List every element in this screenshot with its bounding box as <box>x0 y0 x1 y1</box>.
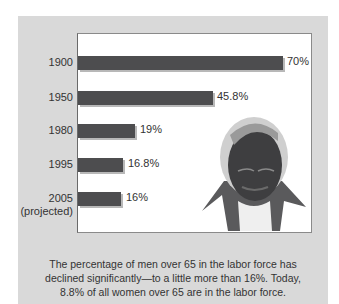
bar-1980 <box>78 124 135 138</box>
y-label-projected: (projected) <box>20 205 73 218</box>
caption-line-1: The percentage of men over 65 in the lab… <box>28 257 318 271</box>
value-label-1900: 70% <box>287 55 309 67</box>
value-label-1980: 19% <box>140 123 162 135</box>
bar-1950 <box>78 91 213 105</box>
y-label-1995: 1995 <box>49 158 73 171</box>
y-label-1950: 1950 <box>49 91 73 104</box>
value-label-1995: 16.8% <box>128 157 159 169</box>
y-label-1980: 1980 <box>49 124 73 137</box>
value-label-1950: 45.8% <box>217 90 248 102</box>
bar-2005 <box>78 192 121 206</box>
chart-caption: The percentage of men over 65 in the lab… <box>28 257 318 299</box>
value-label-2005: 16% <box>126 191 148 203</box>
caption-line-2: declined significantly—to a little more … <box>28 271 318 285</box>
caption-line-3: 8.8% of all women over 65 are in the lab… <box>28 285 318 299</box>
elderly-man-illustration <box>198 115 310 231</box>
bar-1995 <box>78 158 123 172</box>
bar-1900 <box>78 56 283 70</box>
y-label-2005: 2005 <box>49 192 73 205</box>
y-label-1900: 1900 <box>49 56 73 69</box>
